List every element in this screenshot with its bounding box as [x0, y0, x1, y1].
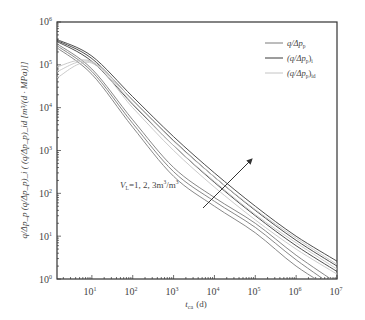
- y-tick-1: 101: [39, 231, 52, 242]
- x-tick-4: 104: [207, 286, 220, 297]
- curve-line: [57, 60, 337, 265]
- x-tick-1: 101: [84, 286, 97, 297]
- y-tick-0: 100: [39, 274, 52, 285]
- legend: q/Δpp (q/Δpp)i (q/Δpp)id: [265, 38, 316, 79]
- legend-label-i: (q/Δpp)i: [287, 53, 313, 64]
- x-tick-7: 107: [330, 286, 343, 297]
- vl-annotation: VL=1, 2, 3m3/m3: [120, 179, 179, 191]
- x-tick-2: 102: [125, 286, 138, 297]
- y-tick-5: 105: [39, 59, 52, 70]
- x-tick-6: 106: [289, 286, 302, 297]
- legend-label-total: q/Δpp: [287, 38, 306, 49]
- x-tick-labels: 101 102 103 104 105 106 107: [84, 286, 343, 297]
- y-axis-label: q/Δp_p (q/Δp_p)_i ( (q/Δp_p)_id [m³/(d ·…: [19, 61, 29, 238]
- legend-label-id: (q/Δpp)id: [287, 68, 316, 79]
- chart-svg: 100 101 102 103 104 105 106 101 102 103 …: [0, 0, 365, 320]
- x-tick-3: 103: [166, 286, 179, 297]
- x-tick-5: 105: [248, 286, 261, 297]
- y-tick-6: 106: [39, 16, 52, 27]
- y-tick-4: 104: [39, 102, 52, 113]
- y-tick-2: 102: [39, 188, 52, 199]
- y-tick-labels: 100 101 102 103 104 105 106: [39, 16, 52, 285]
- x-axis-label: tca(d): [185, 299, 206, 310]
- y-tick-3: 103: [39, 145, 52, 156]
- curve-line: [57, 48, 337, 292]
